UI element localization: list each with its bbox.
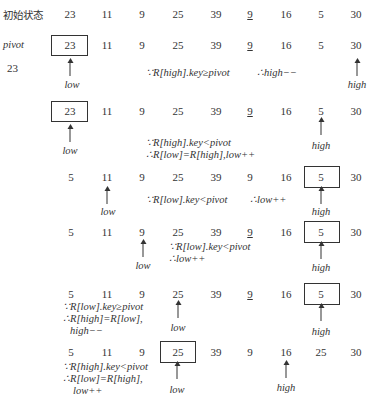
cell: 9 — [139, 8, 145, 20]
pivot-value: 23 — [7, 62, 18, 74]
cell: 25 — [173, 39, 184, 51]
cell: 16 — [281, 8, 292, 20]
cell: 5 — [68, 288, 74, 300]
cell: 39 — [211, 105, 222, 117]
note: ∴R[low]=R[high],low++ — [146, 149, 255, 161]
note: high−− — [70, 325, 103, 337]
up-arrow-icon — [107, 190, 108, 204]
cell: 30 — [351, 39, 362, 51]
cell: 25 — [173, 346, 184, 358]
cell: 30 — [351, 226, 362, 238]
low-pointer: low — [100, 206, 115, 217]
cell: 23 — [65, 8, 76, 20]
high-pointer: high — [277, 382, 296, 393]
cell: 9 — [247, 346, 253, 358]
high-pointer: high — [312, 206, 331, 217]
low-pointer: low — [135, 260, 150, 271]
cell-underlined: 9 — [247, 39, 253, 51]
cell: 5 — [318, 8, 324, 20]
note: ∵R[high].key<pivot — [146, 137, 231, 149]
high-pointer: high — [312, 262, 331, 273]
cell: 11 — [102, 8, 113, 20]
cell: 23 — [65, 39, 76, 51]
cell-underlined: 9 — [247, 8, 253, 20]
up-arrow-icon — [286, 364, 287, 378]
cell: 16 — [281, 288, 292, 300]
cell: 16 — [281, 105, 292, 117]
cell: 16 — [281, 346, 292, 358]
low-pointer: low — [170, 322, 185, 333]
cell: 5 — [318, 39, 324, 51]
up-arrow-icon — [321, 121, 322, 135]
cell: 5 — [318, 105, 324, 117]
cell: 39 — [211, 288, 222, 300]
up-arrow-icon — [321, 307, 322, 321]
cell: 11 — [102, 346, 113, 358]
cell: 25 — [173, 171, 184, 183]
cell: 25 — [173, 226, 184, 238]
cell-underlined: 9 — [247, 105, 253, 117]
cell: 39 — [211, 346, 222, 358]
up-arrow-icon — [321, 245, 322, 259]
cell: 9 — [139, 105, 145, 117]
cell: 9 — [139, 226, 145, 238]
cell: 11 — [102, 105, 113, 117]
cell: 39 — [211, 8, 222, 20]
cell: 5 — [68, 226, 74, 238]
high-pointer: high — [312, 140, 331, 151]
cell: 9 — [139, 288, 145, 300]
note: ∴high−− — [257, 67, 297, 79]
cell: 16 — [281, 226, 292, 238]
cell: 16 — [281, 171, 292, 183]
high-pointer: high — [312, 326, 331, 337]
up-arrow-icon — [143, 243, 144, 257]
note: ∴low++ — [169, 253, 205, 265]
cell: 30 — [351, 346, 362, 358]
cell: 30 — [351, 288, 362, 300]
cell: 16 — [281, 39, 292, 51]
note: ∴R[low]=R[high], — [63, 373, 143, 385]
cell: 11 — [102, 288, 113, 300]
cell: 5 — [318, 288, 324, 300]
note: ∴low++ — [250, 194, 286, 206]
cell: 25 — [316, 346, 327, 358]
up-arrow-icon — [70, 62, 71, 76]
cell: 5 — [68, 171, 74, 183]
cell: 25 — [173, 8, 184, 20]
note: ∵R[high].key≥pivot — [146, 67, 230, 79]
up-arrow-icon — [177, 365, 178, 379]
low-pointer: low — [62, 145, 77, 156]
note: ∵R[low].key≥pivot — [63, 301, 143, 313]
cell: 30 — [351, 105, 362, 117]
up-arrow-icon — [178, 304, 179, 318]
cell: 30 — [351, 171, 362, 183]
low-pointer: low — [64, 79, 79, 90]
cell: 5 — [68, 346, 74, 358]
cell: 25 — [173, 105, 184, 117]
cell-underlined: 9 — [247, 288, 253, 300]
cell-underlined: 9 — [247, 226, 253, 238]
pivot-label: pivot — [3, 39, 24, 51]
up-arrow-icon — [321, 190, 322, 204]
cell: 11 — [102, 226, 113, 238]
up-arrow-icon — [70, 128, 71, 142]
cell: 9 — [139, 346, 145, 358]
cell: 23 — [65, 105, 76, 117]
low-pointer: low — [169, 384, 184, 395]
cell: 9 — [139, 39, 145, 51]
note: ∵R[low].key<pivot — [169, 241, 250, 253]
cell: 30 — [351, 8, 362, 20]
note: ∴R[high]=R[low], — [63, 313, 143, 325]
cell: 11 — [102, 39, 113, 51]
high-pointer: high — [348, 79, 367, 90]
cell: 9 — [247, 171, 253, 183]
up-arrow-icon — [357, 62, 358, 76]
cell: 39 — [211, 226, 222, 238]
cell: 9 — [139, 171, 145, 183]
note: low++ — [73, 385, 102, 397]
cell: 39 — [211, 39, 222, 51]
cell: 5 — [318, 171, 324, 183]
cell: 25 — [173, 288, 184, 300]
initial-state-label: 初始状态 — [3, 7, 43, 22]
cell: 11 — [102, 171, 113, 183]
